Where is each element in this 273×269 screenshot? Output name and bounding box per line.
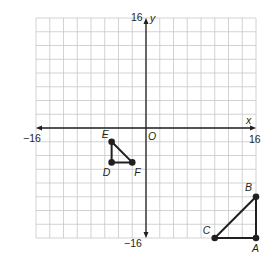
triangle-outline [215,197,256,238]
x-axis-label: x [245,114,252,126]
origin-label: O [148,130,156,142]
vertex-label-c: C [203,224,211,236]
vertex-label-e: E [102,128,110,140]
y-min-label: −16 [124,237,142,249]
coordinate-plane: −16 16 x 16 −16 y O ABCDEF [0,0,273,269]
triangle-abc: ABC [203,181,260,254]
y-axis-bottom-arrow-icon [144,232,149,238]
vertex-point-a [253,235,260,242]
x-max-label: 16 [249,133,261,145]
vertex-label-a: A [251,242,259,254]
vertex-label-f: F [134,166,141,178]
vertex-label-b: B [245,181,252,193]
y-max-label: 16 [131,11,143,23]
y-axis-label: y [149,12,156,24]
vertex-point-c [211,235,218,242]
vertex-point-d [108,159,115,166]
vertex-point-f [129,159,136,166]
axes [36,18,256,238]
x-axis-right-arrow-icon [250,126,256,131]
x-min-label: −16 [23,132,41,144]
x-axis-left-arrow-icon [36,126,42,131]
vertex-label-d: D [103,166,111,178]
vertex-point-e [108,138,115,145]
triangle-def: DEF [102,128,142,179]
triangle-outline [112,142,133,163]
vertex-point-b [253,193,260,200]
triangles: ABCDEF [102,128,260,254]
y-axis-top-arrow-icon [144,18,149,24]
